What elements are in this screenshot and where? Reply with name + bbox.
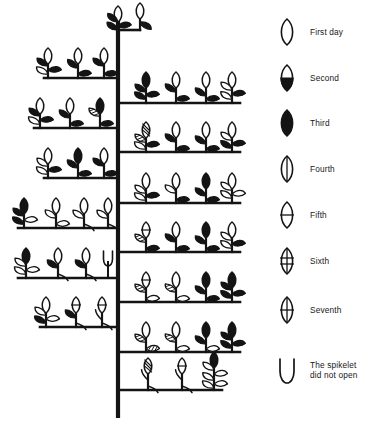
legend-label-fifth: Fifth: [310, 210, 327, 221]
spikelet-group-b9: [133, 222, 245, 253]
spikelet-group-b13: [133, 322, 245, 353]
legend-label-third: Third: [310, 118, 330, 129]
spikelet-group-b14: [140, 352, 228, 394]
spikelet-group-b11: [133, 272, 245, 303]
spikelet-group-b4: [27, 98, 114, 128]
seventh-day-spikelet-icon: [272, 288, 302, 332]
legend-label-first: First day: [310, 27, 343, 38]
panicle-diagram: [0, 0, 256, 425]
spikelet-group-b2: [35, 48, 118, 78]
legend-item-fourth: Fourth: [272, 147, 335, 191]
sixth-day-spikelet-icon: [272, 239, 302, 283]
legend: First day Second Third: [256, 0, 378, 425]
spikelet-group-b5: [133, 122, 246, 153]
legend-item-fifth: Fifth: [272, 193, 327, 237]
legend-item-first: First day: [272, 10, 343, 54]
legend-label-sixth: Sixth: [310, 256, 329, 267]
legend-label-unopened: The spikelet did not open: [310, 360, 357, 381]
first-day-spikelet-icon: [272, 10, 302, 54]
figure-root: First day Second Third: [0, 0, 378, 425]
legend-label-seventh: Seventh: [310, 305, 342, 316]
spikelet-not-opened-icon: [272, 348, 302, 392]
panicle-svg: [0, 0, 256, 425]
spikelet-group-b3: [133, 72, 246, 103]
legend-label-fourth: Fourth: [310, 164, 335, 175]
spikelet-group-b7: [133, 173, 246, 204]
second-day-spikelet-icon: [272, 56, 302, 100]
third-day-spikelet-icon: [272, 101, 302, 145]
legend-item-second: Second: [272, 56, 339, 100]
legend-item-seventh: Seventh: [272, 288, 342, 332]
spikelet-group-b1: [105, 3, 153, 31]
legend-item-unopened: The spikelet did not open: [272, 348, 357, 392]
fourth-day-spikelet-icon: [272, 147, 302, 191]
spikelet-group-b6: [35, 148, 118, 178]
legend-item-third: Third: [272, 101, 330, 145]
fifth-day-spikelet-icon: [272, 193, 302, 237]
legend-item-sixth: Sixth: [272, 239, 329, 283]
legend-label-second: Second: [310, 73, 339, 84]
